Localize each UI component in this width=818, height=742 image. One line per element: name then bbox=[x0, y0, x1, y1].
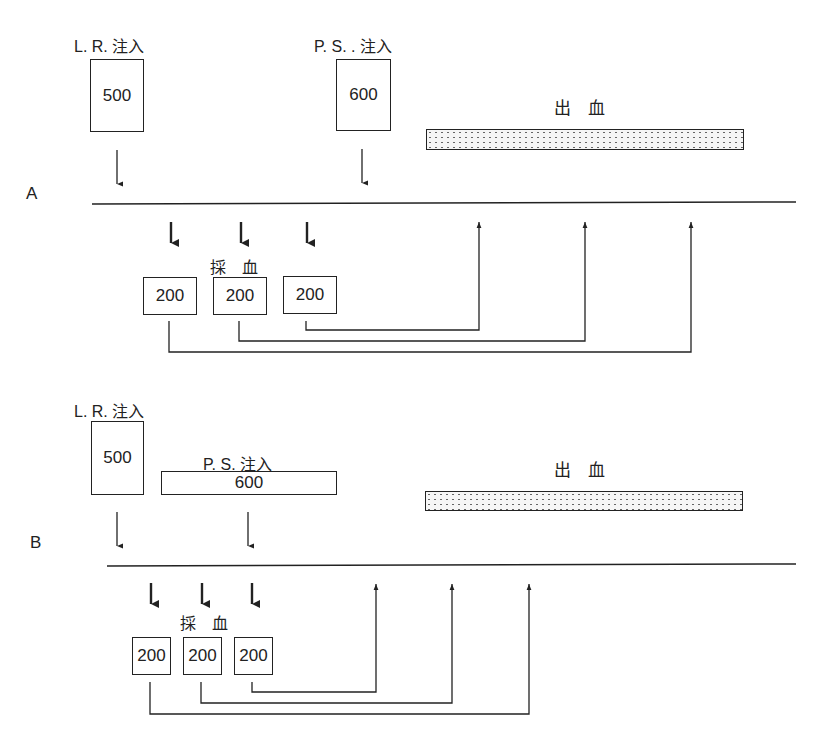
diagram-lines bbox=[0, 0, 818, 742]
return-line-a-1 bbox=[169, 222, 691, 352]
return-line-a-3 bbox=[306, 222, 479, 330]
timeline-b bbox=[107, 564, 796, 566]
timeline-a bbox=[92, 202, 796, 204]
return-line-b-1 bbox=[150, 584, 529, 714]
return-line-b-3 bbox=[252, 584, 376, 692]
return-line-a-2 bbox=[239, 222, 585, 341]
return-line-b-2 bbox=[201, 584, 452, 703]
